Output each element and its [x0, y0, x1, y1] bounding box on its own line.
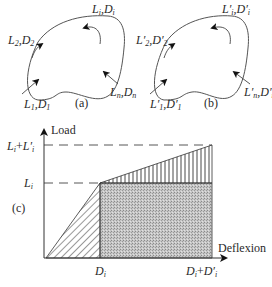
- panel-a: Li,Di L2,D2 L1,D1 Ln,Dn (a): [7, 2, 136, 112]
- label-ln-dn-b: L′n,D′n: [243, 85, 272, 100]
- label-l1-d1-a: L1,D1: [23, 97, 50, 112]
- panel-a-label: (a): [75, 96, 88, 110]
- arrow-icon-li: [84, 27, 100, 44]
- arrow-icon-li-prime: [212, 27, 230, 44]
- y-tick-li-plus: Li+L′i: [6, 139, 34, 154]
- region-diagonal-triangle: [46, 183, 100, 258]
- label-li-di-b: L′i,D′i: [221, 2, 250, 17]
- figure-canvas: Li,Di L2,D2 L1,D1 Ln,Dn (a) L′i,D′i L′2,…: [0, 0, 272, 287]
- panel-b: L′i,D′i L′2,D′2 L′1,D′1 L′n,D′n (b): [135, 2, 272, 112]
- arrow-icon-l1: [22, 80, 38, 94]
- panel-c: Load Deflexion Li+L′i Li Di Di+D′i (c): [6, 123, 266, 279]
- label-li-di-a: Li,Di: [91, 2, 115, 17]
- label-l1-d1-b: L′1,D′1: [149, 97, 182, 112]
- arrow-icon-ln: [104, 72, 118, 84]
- panel-c-label: (c): [12, 201, 25, 215]
- x-tick-di: Di: [94, 264, 106, 279]
- body-outline-b: [154, 16, 248, 100]
- x-axis-label: Deflexion: [218, 241, 266, 255]
- arrow-icon-l1-prime: [150, 80, 166, 94]
- y-axis-label: Load: [51, 123, 76, 137]
- label-l2-d2-a: L2,D2: [7, 33, 34, 48]
- y-tick-li: Li: [23, 176, 33, 191]
- region-vertical-triangle: [100, 145, 212, 183]
- x-tick-di-plus: Di+D′i: [185, 264, 217, 279]
- region-stipple-rect: [100, 183, 212, 258]
- panel-b-label: (b): [204, 96, 218, 110]
- label-ln-dn-a: Ln,Dn: [109, 85, 136, 100]
- label-l2-d2-b: L′2,D′2: [135, 33, 168, 48]
